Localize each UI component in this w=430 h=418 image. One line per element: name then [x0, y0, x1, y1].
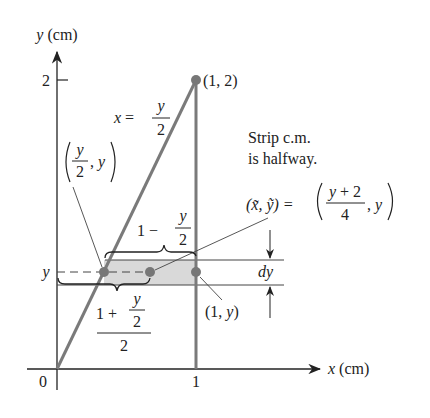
centroid-tail: , y [367, 196, 383, 214]
right-point-label: (1, y) [205, 303, 239, 321]
point-centroid [145, 267, 155, 277]
brace-top-prefix: 1 − [137, 222, 158, 239]
leader-right-point [200, 277, 222, 300]
left-point-num: y [74, 141, 84, 159]
brace-bottom-outer-den: 2 [120, 337, 128, 354]
brace-top-num: y [177, 207, 187, 225]
annotation-line1: Strip c.m. [248, 129, 311, 147]
x-axis-label: x (cm) [327, 360, 369, 378]
paren-left-close [111, 142, 115, 182]
leader-centroid [155, 218, 268, 270]
brace-bottom-prefix: 1 + [96, 305, 117, 322]
paren-centroid-close [388, 183, 393, 220]
point-right [191, 267, 201, 277]
y-tick-label: 2 [42, 72, 50, 89]
brace-top-den: 2 [179, 231, 187, 248]
paren-centroid-open [318, 183, 323, 220]
point-1-2 [191, 75, 201, 85]
curve-label-num: y [155, 97, 165, 115]
brace-bottom-num: y [131, 290, 141, 308]
left-point-den: 2 [76, 163, 84, 180]
centroid-den: 4 [341, 206, 349, 223]
curve-label-lhs: x = [113, 109, 134, 126]
centroid-lhs: (x̃, ỹ) = [246, 196, 294, 214]
x-tick-label: 1 [192, 373, 200, 390]
annotation-line2: is halfway. [248, 150, 317, 168]
y-strip-label: y [40, 263, 50, 281]
y-axis-label: y (cm) [34, 26, 77, 44]
curve-label-den: 2 [157, 121, 165, 138]
left-point-tail: , y [90, 153, 106, 171]
centroid-num: y + 2 [327, 183, 361, 201]
paren-left-open [66, 142, 70, 182]
centroid-diagram: y (cm) x (cm) 0 1 2 y x = y 2 (1, 2) y 2… [0, 0, 430, 418]
leader-left-point [73, 187, 102, 267]
origin-label: 0 [39, 373, 47, 390]
point-left [99, 267, 109, 277]
point-1-2-label: (1, 2) [203, 72, 238, 90]
brace-bottom-den: 2 [133, 313, 141, 330]
dy-label: dy [258, 263, 274, 281]
